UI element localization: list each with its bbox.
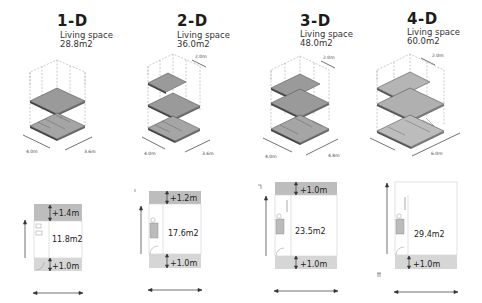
bottom-offset: +1.0m bbox=[52, 262, 79, 271]
plan-area: 29.4m2 bbox=[414, 230, 445, 239]
isometric-drawing: 2.0m 6.0m bbox=[360, 0, 482, 160]
plan-area: 17.6m2 bbox=[168, 229, 199, 238]
unit-1d: 1-D Living space 28.8m2 bbox=[0, 0, 120, 303]
extension-dim: 2.0m bbox=[323, 55, 335, 60]
extension-dim: 2.0m bbox=[195, 54, 207, 59]
unit-3d: 3-D Living space 48.0m2 2.0m 4.0m bbox=[240, 0, 360, 303]
bottom-offset: +1.0m bbox=[300, 260, 327, 269]
bottom-offset: +1.0m bbox=[413, 260, 440, 269]
floor-plan: +1.4m 11.8m2 +1.0m bbox=[0, 170, 120, 303]
unit-4d: 4-D Living space 60.0m2 2.0m 6 bbox=[360, 0, 482, 303]
top-offset: +1.4m bbox=[52, 209, 79, 218]
floor-plan: 29.4m2 +1.0m bbox=[360, 170, 482, 303]
top-offset: +1.0m bbox=[300, 186, 327, 195]
width-dim: 6.0m bbox=[431, 151, 443, 156]
floor-plan: +1.2m 17.6m2 +1.0m bbox=[120, 170, 240, 303]
depth-dim: 4.0m bbox=[26, 149, 38, 154]
width-dim: 3.6m bbox=[84, 149, 96, 154]
depth-dim: 4.0m bbox=[265, 154, 277, 159]
width-dim: 3.6m bbox=[202, 151, 214, 156]
depth-dim: 4.0m bbox=[144, 151, 156, 156]
bottom-offset: +1.0m bbox=[170, 259, 197, 268]
plan-area: 11.8m2 bbox=[52, 235, 83, 244]
width-dim: 4.8m bbox=[328, 153, 340, 158]
isometric-drawing: 2.0m 4.0m 4.8m bbox=[240, 0, 360, 160]
top-offset: +1.2m bbox=[170, 194, 197, 203]
isometric-drawing: 2.0m 4.0m 3.6m bbox=[120, 0, 240, 160]
floor-plan: +1.0m 23.5m2 +1.0m bbox=[240, 170, 360, 303]
extension-dim: 2.0m bbox=[432, 53, 444, 58]
unit-2d: 2-D Living space 36.0m2 2.0m bbox=[120, 0, 240, 303]
plan-area: 23.5m2 bbox=[295, 227, 326, 236]
isometric-drawing: 4.0m 3.6m bbox=[0, 0, 120, 160]
